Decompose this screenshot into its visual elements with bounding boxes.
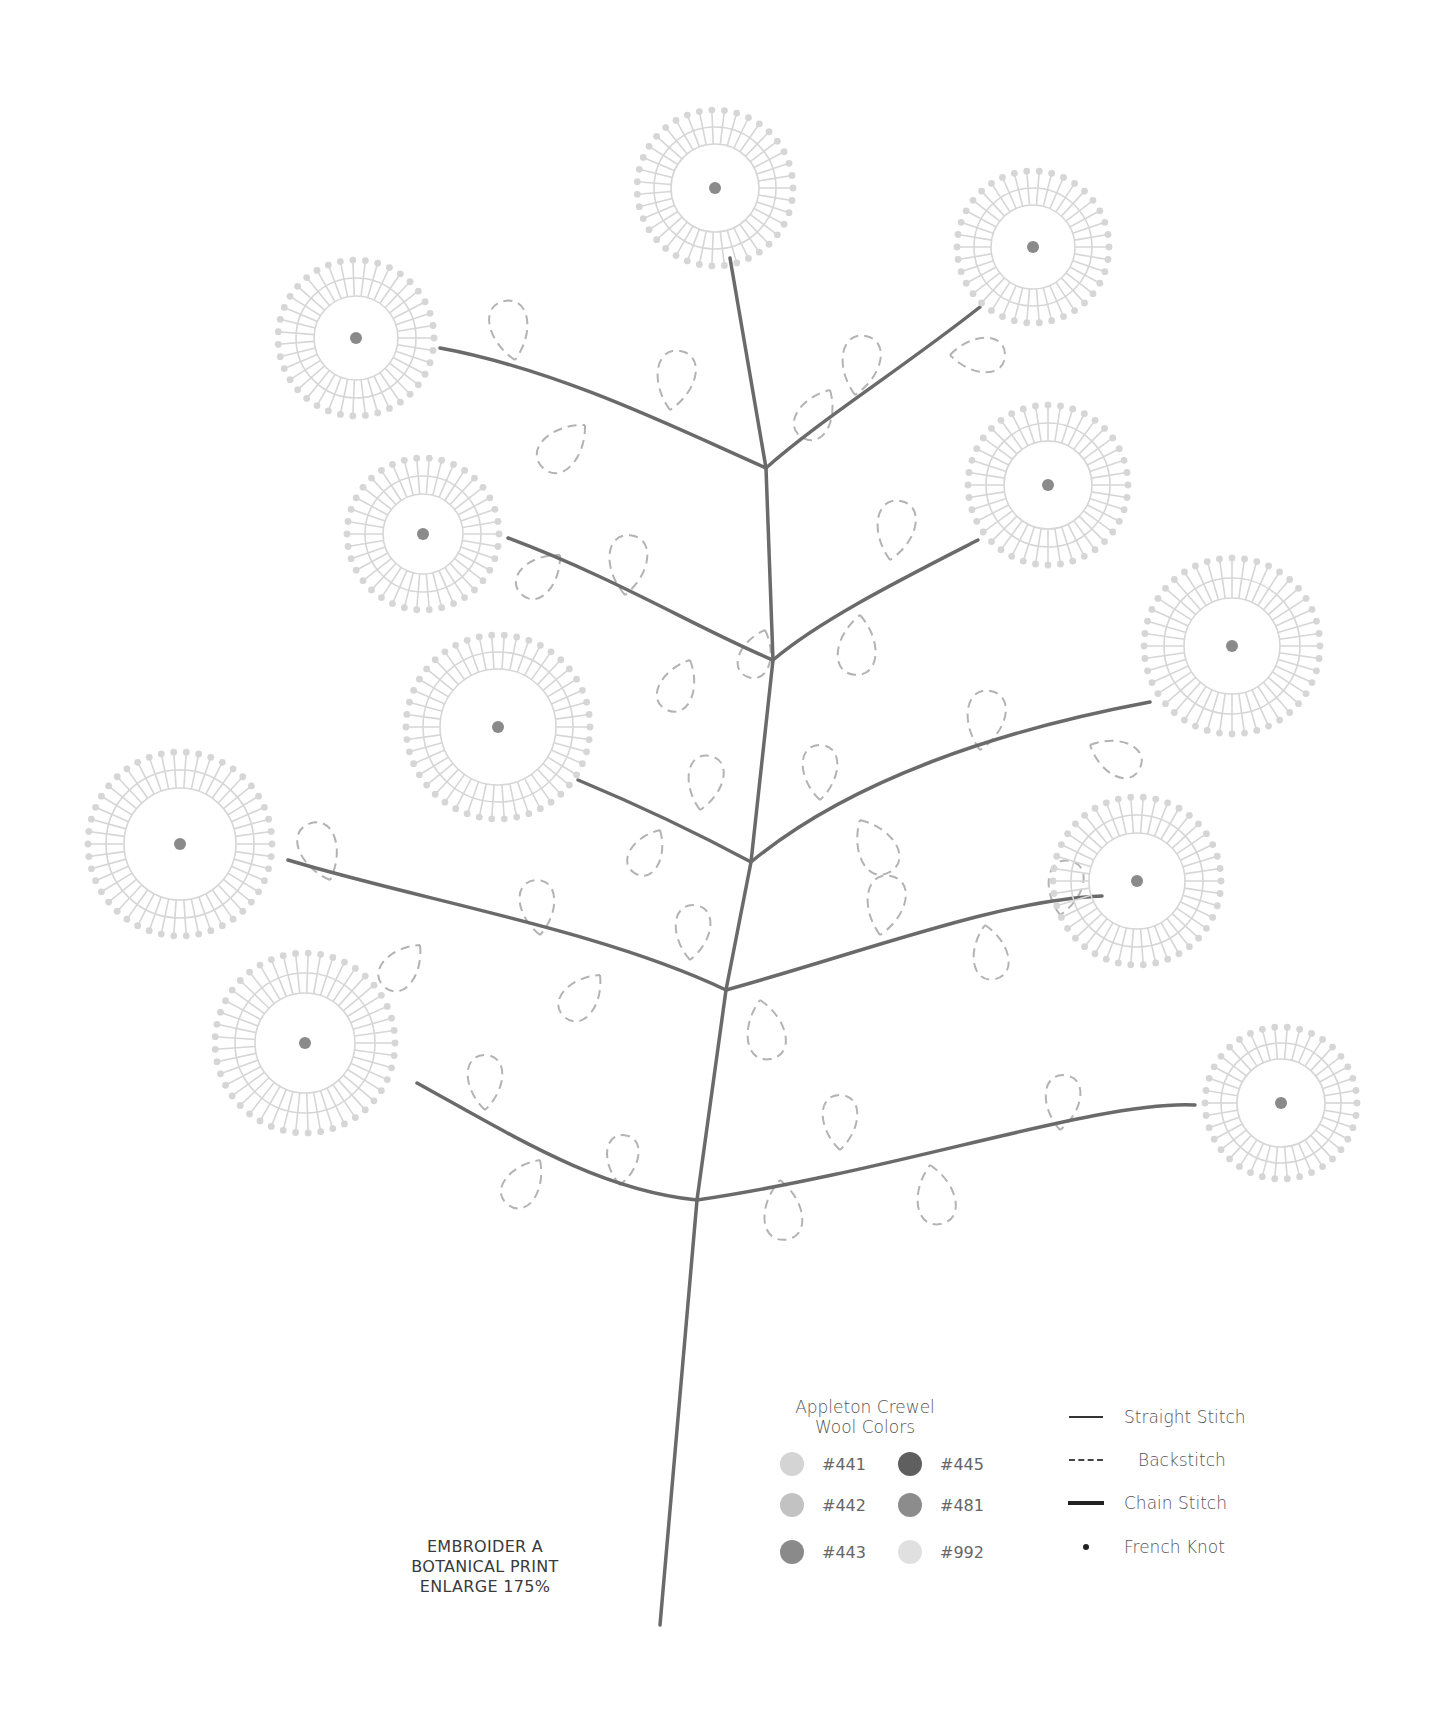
color-441: #441 — [780, 1452, 866, 1476]
leaf — [871, 498, 919, 564]
leaf — [911, 1162, 959, 1228]
flower — [403, 632, 594, 822]
leaf — [468, 1055, 503, 1110]
leaf — [741, 997, 789, 1063]
branch-right-1 — [766, 307, 980, 468]
leaf — [968, 922, 1012, 982]
branch-left-1 — [440, 348, 766, 468]
swatch-icon — [898, 1493, 922, 1517]
flower — [344, 455, 503, 613]
branch-left-5 — [417, 1083, 697, 1200]
color-481: #481 — [898, 1493, 984, 1517]
stitch-straight: Straight Stitch — [1068, 1407, 1246, 1427]
caption-line-3: ENLARGE 175% — [395, 1577, 575, 1597]
swatch-icon — [780, 1540, 804, 1564]
french-knot-icon — [1068, 1544, 1104, 1550]
leaf — [673, 904, 712, 962]
caption-line-2: BOTANICAL PRINT — [395, 1557, 575, 1577]
swatch-icon — [898, 1540, 922, 1564]
flower — [965, 402, 1132, 569]
leaf — [494, 1150, 554, 1215]
leaf — [651, 653, 706, 717]
leaf — [529, 412, 598, 481]
leaf — [836, 333, 884, 399]
botanical-illustration — [0, 0, 1439, 1736]
leaf-backstitch-loops — [292, 298, 1147, 1242]
flower — [1050, 794, 1225, 968]
branch-right-2 — [773, 540, 978, 660]
chain-stitch-icon — [1068, 1501, 1104, 1505]
straight-stitch-icon — [1068, 1416, 1104, 1418]
leaf — [1083, 729, 1147, 784]
leaf — [861, 873, 909, 939]
backstitch-icon — [1068, 1459, 1104, 1461]
leaf — [621, 822, 673, 881]
pattern-caption: EMBROIDER A BOTANICAL PRINT ENLARGE 175% — [395, 1537, 575, 1597]
leaf — [950, 338, 1005, 373]
caption-line-1: EMBROIDER A — [395, 1537, 575, 1557]
flower — [1202, 1024, 1361, 1182]
flower — [275, 257, 438, 420]
color-992: #992 — [898, 1540, 984, 1564]
stitch-back: Backstitch — [1068, 1450, 1226, 1470]
flower — [1141, 555, 1324, 738]
stem-chain-stitch — [288, 258, 1195, 1625]
branch-left-3 — [578, 780, 751, 862]
stitch-knot: French Knot — [1068, 1537, 1225, 1557]
flower — [634, 107, 797, 270]
leaf — [683, 753, 727, 813]
stitch-chain: Chain Stitch — [1068, 1493, 1227, 1513]
leaf — [836, 613, 879, 676]
leaf — [823, 1095, 858, 1150]
color-443: #443 — [780, 1540, 866, 1564]
flower — [954, 168, 1113, 326]
branch-right-4 — [726, 896, 1102, 990]
leaf — [551, 964, 613, 1028]
color-445: #445 — [898, 1452, 984, 1476]
branch-right-5 — [697, 1105, 1195, 1200]
swatch-icon — [780, 1452, 804, 1476]
leaf — [606, 534, 649, 597]
leaf — [651, 348, 699, 414]
leaf — [486, 298, 534, 364]
swatch-icon — [780, 1493, 804, 1517]
leaf — [803, 745, 838, 800]
swatch-icon — [898, 1452, 922, 1476]
flower — [212, 950, 399, 1137]
flower — [85, 749, 276, 939]
wool-colors-title: Appleton Crewel Wool Colors — [770, 1397, 960, 1437]
color-442: #442 — [780, 1493, 866, 1517]
leaf — [844, 811, 907, 882]
leaf — [371, 934, 433, 998]
